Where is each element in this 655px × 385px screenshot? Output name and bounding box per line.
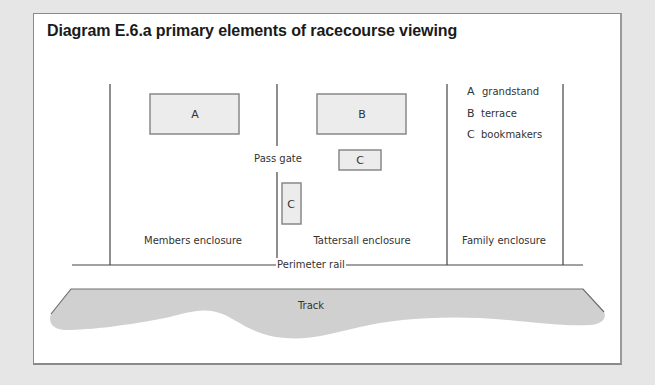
legend: A grandstand B terrace C bookmakers	[467, 85, 542, 141]
enclosure-members-label: Members enclosure	[144, 235, 242, 246]
box-b-label: B	[358, 108, 366, 121]
legend-label-c: bookmakers	[481, 129, 542, 140]
legend-key-c: C	[467, 128, 475, 141]
perimeter-rail-label: Perimeter rail	[277, 259, 345, 270]
pass-gate-label: Pass gate	[254, 153, 302, 164]
legend-key-b: B	[467, 107, 475, 120]
track-label: Track	[297, 300, 324, 311]
box-c2-label: C	[287, 198, 295, 211]
box-a-label: A	[191, 108, 199, 121]
enclosure-tattersall-label: Tattersall enclosure	[312, 235, 410, 246]
box-c1-label: C	[356, 154, 364, 167]
track-shape	[50, 289, 605, 338]
legend-label-a: grandstand	[482, 86, 539, 97]
legend-key-a: A	[467, 85, 475, 98]
enclosure-family-label: Family enclosure	[462, 235, 546, 246]
legend-label-b: terrace	[481, 108, 517, 119]
racecourse-diagram: Track Perimeter rail Pass gate A B C C M…	[0, 0, 655, 385]
